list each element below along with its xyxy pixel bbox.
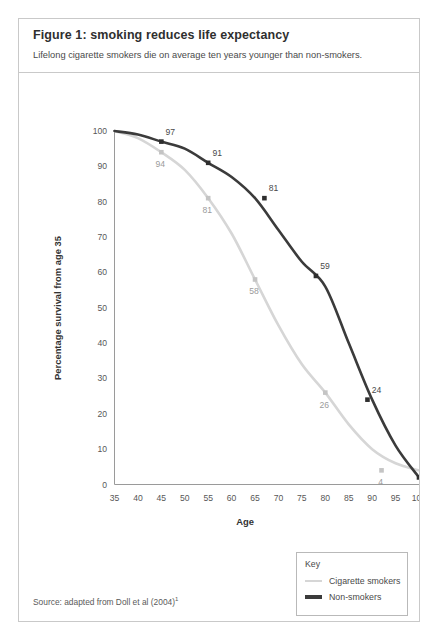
chart-series-group [115,131,420,480]
legend-line-icon-nonsmokers [305,595,322,598]
data-point-label: 24 [372,385,382,395]
data-point-marker [206,161,211,166]
chart-axes [115,131,420,485]
chart-legend: Key Cigarette smokers Non-smokers [296,552,408,616]
y-tick-50: 50 [97,303,107,313]
x-tick-85: 85 [344,493,354,503]
x-tick-40: 40 [133,493,143,503]
data-point-marker [159,150,164,155]
x-tick-70: 70 [274,493,284,503]
x-axis-tick-labels: 35404550556065707580859095100 [110,493,419,503]
y-tick-70: 70 [97,232,107,242]
data-point-marker [417,475,419,480]
data-point-label: 59 [320,261,330,271]
data-point-marker [262,196,267,201]
data-point-label: 81 [269,183,279,193]
survival-line-chart: 0102030405060708090100 35404550556065707… [19,73,419,622]
source-note: Source: adapted from Doll et al (2004)1 [33,596,178,607]
x-tick-95: 95 [391,493,401,503]
y-tick-40: 40 [97,338,107,348]
x-tick-45: 45 [157,493,167,503]
legend-label-smokers: Cigarette smokers [329,576,400,586]
data-point-label: 91 [212,148,222,158]
source-text: Source: adapted from Doll et al (2004) [33,597,175,607]
data-point-marker [365,397,370,402]
data-point-label: 4 [378,477,383,487]
y-tick-30: 30 [97,373,107,383]
y-axis-tick-labels: 0102030405060708090100 [93,126,108,490]
x-tick-90: 90 [367,493,377,503]
data-point-label: 26 [320,400,330,410]
x-tick-35: 35 [110,493,120,503]
y-tick-100: 100 [93,126,108,136]
data-point-marker [314,274,319,279]
y-tick-80: 80 [97,197,107,207]
legend-line-icon-smokers [305,580,322,583]
y-tick-60: 60 [97,267,107,277]
legend-item-cigarette-smokers: Cigarette smokers [305,576,399,586]
x-tick-55: 55 [203,493,213,503]
data-point-label: 94 [156,159,166,169]
legend-item-non-smokers: Non-smokers [305,592,399,602]
x-tick-75: 75 [297,493,307,503]
data-point-marker [159,139,164,144]
x-tick-80: 80 [321,493,331,503]
data-point-label: 81 [202,205,212,215]
legend-label-nonsmokers: Non-smokers [329,592,381,602]
data-point-label: 58 [249,286,259,296]
figure-subtitle: Lifelong cigarette smokers die on averag… [33,49,405,61]
source-superscript: 1 [175,596,178,602]
series-line-smokers [115,131,420,470]
figure-title: Figure 1: smoking reduces life expectanc… [33,28,405,43]
chart-plot-area: 0102030405060708090100 35404550556065707… [19,73,419,622]
data-point-marker [379,468,384,473]
data-point-label: 97 [166,127,176,137]
data-point-marker [206,196,211,201]
y-tick-90: 90 [97,161,107,171]
x-tick-65: 65 [250,493,260,503]
figure-header: Figure 1: smoking reduces life expectanc… [19,19,419,73]
legend-title: Key [305,559,399,569]
figure-card: Figure 1: smoking reduces life expectanc… [18,18,420,622]
x-tick-100: 100 [412,493,419,503]
x-axis-title: Age [236,516,254,527]
data-point-marker [253,277,258,282]
y-axis-title: Percentage survival from age 35 [52,236,63,380]
y-tick-0: 0 [102,480,107,490]
x-tick-60: 60 [227,493,237,503]
y-tick-10: 10 [97,444,107,454]
x-tick-50: 50 [180,493,190,503]
data-point-marker [323,390,328,395]
y-tick-20: 20 [97,409,107,419]
